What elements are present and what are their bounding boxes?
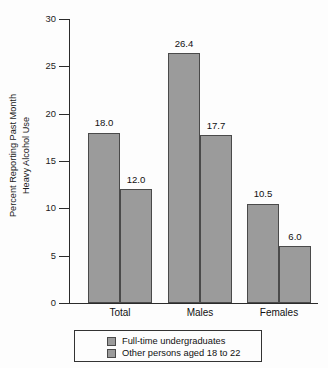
bar-total-other[interactable] (120, 189, 152, 303)
bar-females-other[interactable] (279, 246, 311, 303)
bar-chart: Percent Reporting Past Month Heavy Alcoh… (0, 0, 328, 368)
bar-value-total-other: 12.0 (116, 175, 156, 185)
bar-males-fulltime[interactable] (168, 53, 200, 303)
bar-value-females-other: 6.0 (275, 232, 315, 242)
bar-males-other[interactable] (200, 135, 232, 303)
bar-value-males-fulltime: 26.4 (164, 39, 204, 49)
plot-area: 18.0 12.0 26.4 17.7 10.5 6.0 (0, 0, 328, 304)
category-label-females: Females (249, 308, 309, 318)
legend-label-other-persons: Other persons aged 18 to 22 (122, 349, 240, 358)
legend-swatch-icon-other-persons (107, 349, 116, 358)
bar-total-fulltime[interactable] (88, 133, 120, 304)
category-label-males: Males (170, 308, 230, 318)
bar-females-fulltime[interactable] (247, 204, 279, 303)
bar-value-females-fulltime: 10.5 (243, 189, 283, 199)
legend-label-full-time-undergraduates: Full-time undergraduates (122, 337, 225, 346)
legend: Full-time undergraduates Other persons a… (74, 330, 262, 362)
category-label-total: Total (90, 308, 150, 318)
bar-value-total-fulltime: 18.0 (84, 118, 124, 128)
bar-value-males-other: 17.7 (196, 121, 236, 131)
legend-item-other-persons[interactable]: Other persons aged 18 to 22 (107, 347, 240, 360)
legend-swatch-icon-full-time-undergraduates (107, 337, 116, 346)
